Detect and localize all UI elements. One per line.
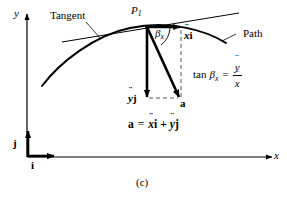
- point-p1-label: P1: [131, 5, 142, 18]
- point-p1-marker: [145, 25, 149, 29]
- point-p1-letter: P: [131, 4, 138, 16]
- path-label: Path: [243, 28, 263, 39]
- y-component-label: yj: [128, 93, 137, 104]
- tangent-angle-formula: tanβx=yx: [193, 62, 242, 90]
- y-component-unit: j: [133, 92, 137, 104]
- accel-term1-unit: i: [154, 118, 157, 130]
- accel-equals-sign: =: [138, 118, 145, 130]
- tangent-leader-line: [86, 22, 100, 38]
- beta-subscript: x: [160, 32, 164, 41]
- tan-beta-subscript: x: [215, 74, 219, 83]
- acceleration-equation: a=xi+yj: [128, 119, 179, 131]
- unit-vector-j-label: j: [13, 138, 17, 149]
- tan-fraction: yx: [233, 62, 242, 90]
- beta-angle-label: βx: [155, 28, 164, 41]
- y-component-symbol: y: [128, 93, 133, 104]
- x-axis-label: x: [274, 150, 279, 161]
- tan-fraction-denominator: x: [233, 76, 242, 90]
- accel-term2-symbol: y: [170, 119, 175, 131]
- tan-operator: tan: [193, 68, 206, 80]
- accel-lhs: a: [128, 118, 134, 130]
- x-component-label: xi: [184, 30, 193, 41]
- y-axis-label: y: [14, 8, 19, 19]
- figure-caption: (c): [136, 177, 148, 188]
- accel-plus-sign: +: [160, 118, 167, 130]
- x-component-symbol: x: [184, 30, 190, 41]
- acceleration-components-figure: y x j i Tangent Path P1 βx xi yj a tanβx…: [0, 0, 287, 197]
- tangent-label: Tangent: [50, 10, 85, 21]
- point-p1-subscript: 1: [138, 9, 142, 18]
- resultant-vector-label: a: [180, 98, 186, 109]
- tan-equals-sign: =: [222, 68, 228, 80]
- unit-vector-i-label: i: [31, 160, 34, 171]
- accel-term1-symbol: x: [148, 119, 154, 131]
- path-leader-line: [222, 34, 236, 41]
- accel-term2-unit: j: [175, 118, 179, 130]
